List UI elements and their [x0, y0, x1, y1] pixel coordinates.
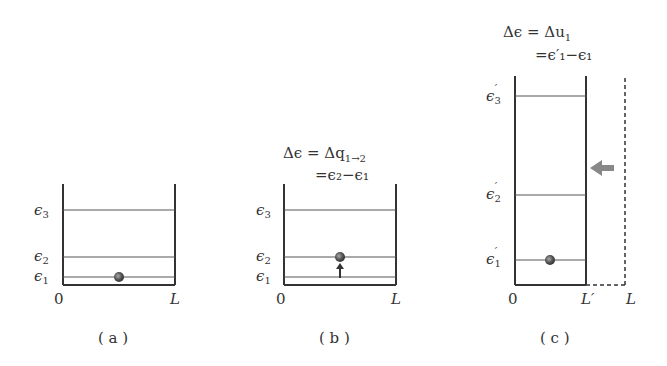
axis-origin: 0: [54, 290, 64, 308]
svg-text:0: 0: [508, 290, 518, 308]
svg-text:ϵ2′: ϵ2′: [486, 180, 501, 204]
panel-a: ϵ3 ϵ2 ϵ1 0 L ( a ): [34, 184, 180, 347]
axis-L: L: [169, 290, 180, 308]
equation-c-line2: =ϵ′₁−ϵ₁: [535, 46, 592, 64]
label-e2: ϵ2: [34, 247, 49, 266]
label-e3: ϵ3: [34, 201, 49, 220]
svg-text:ϵ1′: ϵ1′: [486, 245, 501, 269]
particle: [545, 255, 555, 265]
equation-b-line2: =ϵ₂−ϵ₁: [315, 166, 369, 184]
svg-text:L: L: [625, 290, 636, 308]
svg-text:L: L: [390, 290, 401, 308]
caption-b: ( b ): [319, 329, 350, 347]
equation-b-line1: Δϵ = Δq1→2: [283, 144, 366, 164]
energy-level-diagram: ϵ3 ϵ2 ϵ1 0 L ( a ) Δϵ = Δq1→2 =ϵ₂−ϵ₁ ϵ3 …: [0, 0, 667, 366]
svg-text:ϵ3′: ϵ3′: [486, 82, 501, 106]
svg-text:ϵ3: ϵ3: [256, 201, 271, 220]
panel-c: Δϵ = Δu1 =ϵ′₁−ϵ₁ ϵ3′ ϵ2′ ϵ1′ 0 L′ L ( c …: [486, 23, 636, 347]
arrow-up-icon: [336, 263, 344, 278]
svg-text:0: 0: [276, 290, 286, 308]
svg-text:ϵ2: ϵ2: [256, 247, 271, 266]
label-e1: ϵ1: [34, 267, 49, 286]
svg-text:ϵ1: ϵ1: [256, 267, 271, 286]
caption-a: ( a ): [98, 329, 128, 347]
caption-c: ( c ): [540, 329, 570, 347]
particle: [114, 272, 124, 282]
svg-text:L′: L′: [580, 290, 595, 308]
arrow-left-icon: [590, 160, 614, 176]
equation-c-line1: Δϵ = Δu1: [503, 23, 571, 43]
panel-b: Δϵ = Δq1→2 =ϵ₂−ϵ₁ ϵ3 ϵ2 ϵ1 0 L ( b ): [256, 144, 401, 347]
particle: [335, 252, 345, 262]
